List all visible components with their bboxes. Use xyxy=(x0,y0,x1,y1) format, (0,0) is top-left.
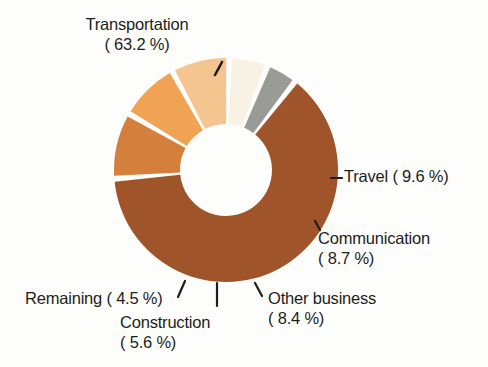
slice-label-other-business: Other business ( 8.4 %) xyxy=(268,288,376,328)
slice-label-transportation-value: ( 63.2 %) xyxy=(57,34,217,54)
slice-label-travel-text: Travel ( 9.6 %) xyxy=(344,167,449,185)
donut-slices xyxy=(114,58,338,282)
leader-line-remaining xyxy=(178,281,185,297)
leader-line-other-business xyxy=(255,283,262,296)
slice-label-remaining-text: Remaining ( 4.5 %) xyxy=(25,289,163,307)
slice-label-transportation: Transportation ( 63.2 %) xyxy=(57,14,217,54)
slice-label-communication: Communication ( 8.7 %) xyxy=(318,228,430,268)
slice-label-construction-value: ( 5.6 %) xyxy=(120,332,210,352)
slice-label-other-business-value: ( 8.4 %) xyxy=(268,308,376,328)
donut-chart: Transportation ( 63.2 %) Travel ( 9.6 %)… xyxy=(0,0,488,367)
slice-label-communication-value: ( 8.7 %) xyxy=(318,248,430,268)
slice-label-travel: Travel ( 9.6 %) xyxy=(344,166,449,186)
slice-label-transportation-name: Transportation xyxy=(86,15,189,33)
slice-label-communication-name: Communication xyxy=(318,229,430,247)
slice-label-other-business-name: Other business xyxy=(268,289,376,307)
slice-label-construction: Construction ( 5.6 %) xyxy=(120,312,210,352)
slice-label-remaining: Remaining ( 4.5 %) xyxy=(25,288,163,308)
slice-label-construction-name: Construction xyxy=(120,313,210,331)
